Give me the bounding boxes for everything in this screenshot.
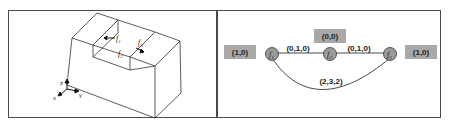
edge-label-f2-f3: (0,1,0) <box>347 44 370 53</box>
attr-f3: (1,0) <box>413 48 430 57</box>
adjacency-graph: (1,0) (0,0) (1,0) f1 f2 f3 (0,1,0) (0,1,… <box>0 0 451 126</box>
attr-f2: (0,0) <box>322 32 339 41</box>
edge-label-f1-f3: (2,3,2) <box>319 77 342 86</box>
edge-label-f1-f2: (0,1,0) <box>286 44 309 53</box>
attr-f1: (1,0) <box>232 48 249 57</box>
